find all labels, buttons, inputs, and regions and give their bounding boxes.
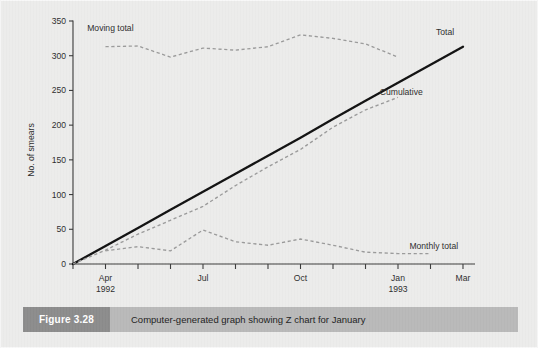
annotation-moving-total: Moving total <box>87 23 133 33</box>
y-tick-label: 50 <box>56 224 66 234</box>
figure-page: 050100150200250300350 Apr1992JulOctJan19… <box>0 0 538 348</box>
y-axis-title: No. of smears <box>26 123 36 177</box>
x-tick-label: Jul <box>198 273 209 283</box>
x-tick-year-label: 1992 <box>96 284 115 294</box>
figure-caption-text: Computer-generated graph showing Z chart… <box>110 307 518 332</box>
y-axis-ticks: 050100150200250300350 <box>52 16 73 269</box>
annotation-total: Total <box>436 27 454 37</box>
x-axis-tick-labels: Apr1992JulOctJan1993Mar <box>96 273 471 294</box>
x-axis-ticks <box>73 264 463 269</box>
y-tick-label: 0 <box>61 259 66 269</box>
z-chart: 050100150200250300350 Apr1992JulOctJan19… <box>0 0 538 300</box>
y-tick-label: 350 <box>52 16 67 26</box>
x-tick-year-label: 1993 <box>388 284 407 294</box>
chart-canvas: 050100150200250300350 Apr1992JulOctJan19… <box>0 0 538 300</box>
x-tick-label: Oct <box>294 273 308 283</box>
chart-axes <box>73 21 475 265</box>
y-tick-label: 300 <box>52 51 67 61</box>
chart-series <box>73 35 463 264</box>
y-tick-label: 250 <box>52 85 67 95</box>
series-line-monthly-total <box>106 230 431 254</box>
series-line-cumulative <box>73 97 398 264</box>
y-tick-label: 200 <box>52 120 67 130</box>
x-tick-label: Apr <box>99 273 113 283</box>
x-tick-label: Mar <box>456 273 471 283</box>
figure-number-tag: Figure 3.28 <box>23 307 110 332</box>
figure-caption-bar: Figure 3.28 Computer-generated graph sho… <box>23 307 518 332</box>
series-line-moving-total <box>106 35 399 57</box>
x-tick-label: Jan <box>391 273 405 283</box>
series-annotations: Moving totalTotalCumulativeMonthly total <box>87 23 458 251</box>
y-tick-label: 150 <box>52 155 67 165</box>
series-line-total <box>73 47 463 264</box>
annotation-cumulative: Cumulative <box>380 87 423 97</box>
y-tick-label: 100 <box>52 190 67 200</box>
annotation-monthly-total: Monthly total <box>409 241 458 251</box>
